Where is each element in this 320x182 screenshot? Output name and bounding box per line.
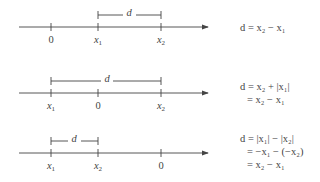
tick-label-x2: x2 — [94, 160, 102, 173]
bracket-label-3: d — [71, 133, 76, 144]
number-line-1 — [19, 11, 208, 31]
number-line-3 — [19, 137, 208, 157]
number-line-2 — [19, 77, 208, 97]
tick-label-x2: x2 — [157, 34, 165, 47]
tick-label-x1: x1 — [47, 160, 55, 173]
equation-3: d = |x₁| − |x₂| = −x₁ − (−x₂) = x₂ − x₁ — [240, 132, 303, 171]
tick-label-zero: 0 — [48, 34, 53, 45]
equation-1: d = x₂ − x₁ — [240, 21, 285, 34]
equation-line: d = x₂ − x₁ — [240, 21, 285, 34]
tick-label-zero: 0 — [95, 100, 100, 111]
tick-label-x1: x1 — [47, 100, 55, 113]
tick-label-x2: x2 — [157, 100, 165, 113]
equation-line: d = x₂ + |x₁| — [240, 80, 290, 93]
tick-label-zero: 0 — [158, 160, 163, 171]
equation-line: = x₂ − x₁ — [240, 158, 303, 171]
equation-2: d = x₂ + |x₁| = x₂ − x₁ — [240, 80, 290, 106]
equation-line: = x₂ − x₁ — [240, 93, 290, 106]
bracket-label-1: d — [126, 7, 131, 18]
equation-line: d = |x₁| − |x₂| — [240, 132, 303, 145]
equation-line: = −x₁ − (−x₂) — [240, 145, 303, 158]
bracket-label-2: d — [104, 73, 109, 84]
tick-label-x1: x1 — [94, 34, 102, 47]
